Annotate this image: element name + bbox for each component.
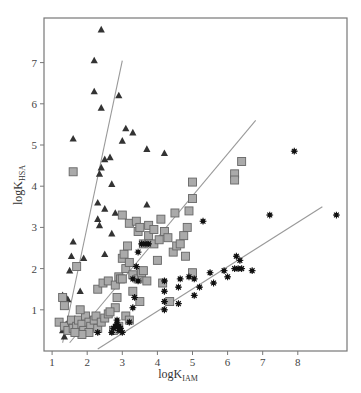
triangle-marker [70, 135, 77, 142]
y-tick-label: 2 [32, 263, 38, 275]
asterisk-marker [161, 298, 168, 305]
asterisk-marker [191, 292, 198, 299]
asterisk-marker [236, 257, 243, 264]
y-tick-label: 4 [32, 180, 38, 192]
asterisk-marker [115, 323, 122, 330]
triangle-marker [96, 222, 103, 229]
asterisk-marker [108, 329, 115, 336]
triangle-marker [119, 137, 126, 144]
triangle-marker [98, 104, 105, 111]
asterisk-marker [196, 284, 203, 291]
asterisk-marker [119, 329, 126, 336]
x-tick-label: 8 [295, 356, 301, 368]
asterisk-marker [133, 263, 140, 270]
triangle-marker [98, 26, 105, 33]
triangle-marker [94, 215, 101, 222]
square-marker [181, 252, 189, 260]
y-tick-label: 1 [32, 304, 38, 316]
triangle-marker [108, 180, 115, 187]
y-tick-label: 7 [32, 57, 38, 69]
x-axis-title: logKIAM [158, 367, 198, 383]
square-marker [73, 263, 81, 271]
asterisk-marker [177, 276, 184, 283]
y-axis-title: logKHSA [11, 165, 27, 205]
x-tick-label: 5 [190, 356, 196, 368]
scatter-chart: 12345678 1234567 logKIAM logKHSA [0, 0, 361, 393]
regression-lines [63, 61, 323, 349]
asterisk-marker [186, 273, 193, 280]
asterisk-marker [129, 304, 136, 311]
square-marker [136, 298, 144, 306]
triangle-marker [94, 199, 101, 206]
triangle-marker [101, 250, 108, 257]
triangle-marker [161, 149, 168, 156]
triangle-marker [122, 125, 129, 132]
triangle-marker [68, 252, 75, 259]
square-marker [183, 223, 191, 231]
triangle-marker [91, 88, 98, 95]
square-marker [124, 242, 132, 250]
square-marker [238, 157, 246, 165]
square-marker [157, 215, 165, 223]
asterisk-marker [333, 212, 340, 219]
data-points [55, 26, 340, 340]
asterisk-marker [131, 294, 138, 301]
square-marker [118, 275, 126, 283]
asterisk-marker [200, 218, 207, 225]
asterisk-marker [161, 288, 168, 295]
asterisk-marker [224, 273, 231, 280]
asterisk-marker [126, 319, 133, 326]
triangle-marker [143, 201, 150, 208]
asterisk-marker [145, 240, 152, 247]
square-marker [136, 223, 144, 231]
x-tick-label: 3 [120, 356, 126, 368]
asterisk-marker [207, 269, 214, 276]
square-marker [176, 240, 184, 248]
y-tick-label: 6 [32, 98, 38, 110]
square-marker [113, 293, 121, 301]
square-marker [60, 302, 68, 310]
triangle-marker [143, 145, 150, 152]
square-marker [71, 328, 79, 336]
square-marker [69, 168, 77, 176]
x-tick-label: 6 [225, 356, 231, 368]
asterisk-marker [175, 300, 182, 307]
triangle-marker [115, 92, 122, 99]
x-tick-label: 2 [84, 356, 90, 368]
triangle-marker [66, 267, 73, 274]
asterisk-marker [114, 317, 121, 324]
asterisk-marker [266, 212, 273, 219]
asterisk-marker [175, 284, 182, 291]
square-marker [164, 234, 172, 242]
square-marker [150, 225, 158, 233]
x-axis-ticks: 12345678 [49, 351, 301, 368]
triangle-marker [108, 230, 115, 237]
triangle-marker [91, 57, 98, 64]
asterisk-marker [221, 267, 228, 274]
asterisk-marker [291, 148, 298, 155]
square-marker [76, 306, 84, 314]
square-marker [59, 293, 67, 301]
square-marker [143, 277, 151, 285]
square-marker [185, 207, 193, 215]
y-tick-label: 3 [32, 221, 38, 233]
triangle-marker [77, 287, 84, 294]
asterisk-marker [238, 265, 245, 272]
square-marker [118, 211, 126, 219]
square-marker [155, 236, 163, 244]
asterisk-marker [210, 280, 217, 287]
square-marker [129, 287, 137, 295]
asterisk-marker [135, 249, 142, 256]
asterisk-marker [94, 329, 101, 336]
square-marker [231, 176, 239, 184]
square-marker [139, 267, 147, 275]
asterisk-marker [135, 278, 142, 285]
x-tick-label: 7 [260, 356, 266, 368]
square-marker [189, 195, 197, 203]
square-marker [106, 308, 114, 316]
x-tick-label: 1 [49, 356, 55, 368]
triangle-marker [96, 170, 103, 177]
triangle-marker [106, 154, 113, 161]
square-marker [171, 209, 179, 217]
square-marker [180, 232, 188, 240]
